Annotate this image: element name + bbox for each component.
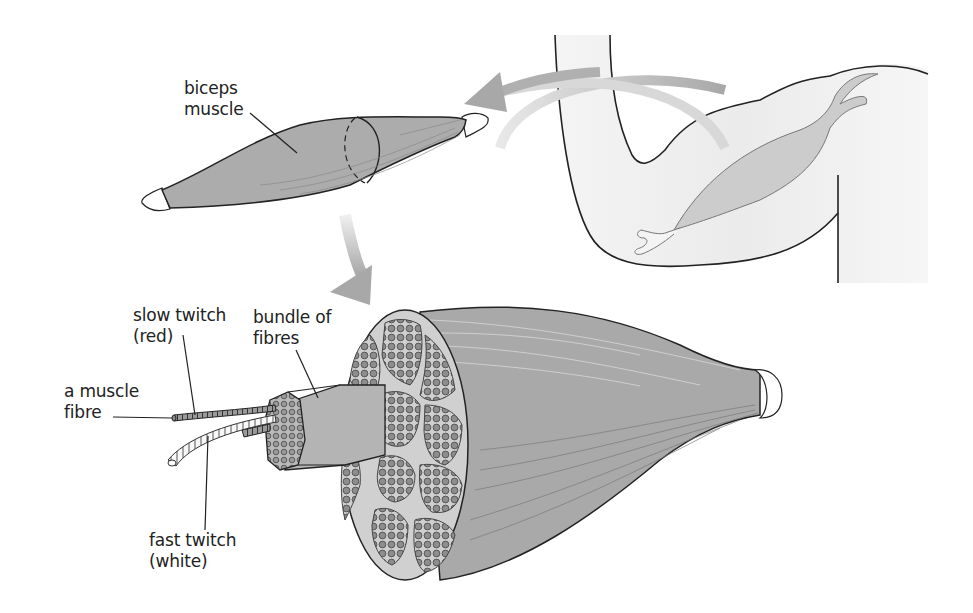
label-fast-twitch: fast twitch (white): [149, 530, 236, 572]
fibre-bundle: [265, 385, 385, 470]
label-slow-twitch: slow twitch (red): [133, 305, 226, 347]
muscle-cross-section: [341, 307, 782, 580]
label-muscle-fibre: a muscle fibre: [64, 381, 139, 423]
down-arrow-icon: [330, 215, 372, 305]
label-biceps-muscle: biceps muscle: [184, 78, 244, 120]
muscle-fibres: [168, 405, 276, 466]
arm-illustration: [555, 35, 928, 283]
label-bundle-of-fibres: bundle of fibres: [253, 307, 331, 349]
biceps-muscle-shape: [142, 113, 489, 211]
